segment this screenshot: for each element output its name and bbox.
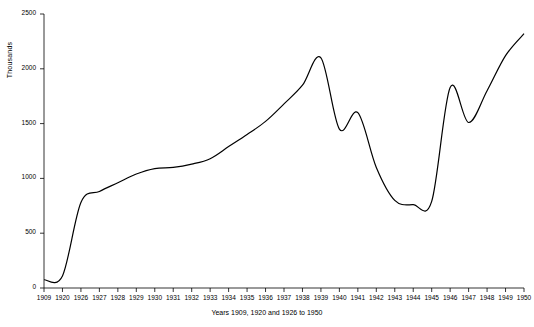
chart-container: Thousands Years 1909, 1920 and 1926 to 1… xyxy=(0,0,534,327)
x-axis-ticks xyxy=(44,288,524,292)
y-tick-label: 1500 xyxy=(2,119,36,126)
y-tick-label: 2500 xyxy=(2,9,36,16)
x-axis-title: Years 1909, 1920 and 1926 to 1950 xyxy=(0,309,534,316)
y-tick-label: 1000 xyxy=(2,173,36,180)
y-axis-ticks xyxy=(40,14,44,288)
y-tick-label: 0 xyxy=(2,283,36,290)
data-series-line xyxy=(44,34,524,283)
line-chart-plot xyxy=(0,0,534,327)
y-tick-label: 500 xyxy=(2,228,36,235)
x-tick-label: 1950 xyxy=(510,294,534,301)
y-axis-title: Thousands xyxy=(6,0,13,120)
y-tick-label: 2000 xyxy=(2,64,36,71)
